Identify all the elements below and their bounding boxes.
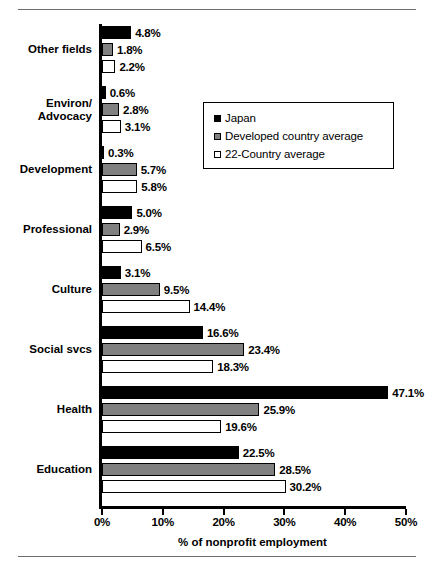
- bar-value-label: 19.6%: [225, 421, 257, 433]
- bar-value-label: 2.2%: [119, 61, 144, 73]
- bar-value-label: 0.6%: [110, 87, 135, 99]
- bar: [102, 180, 137, 193]
- bar-value-label: 2.8%: [123, 104, 148, 116]
- category-label: Health: [0, 403, 92, 416]
- x-axis-tick-label: 50%: [376, 516, 434, 528]
- x-axis-tick-label: 40%: [315, 516, 375, 528]
- category-label-line: Social svcs: [0, 343, 92, 356]
- x-axis-tick: [223, 509, 225, 515]
- bar-value-label: 5.0%: [136, 207, 161, 219]
- category-label: Education: [0, 463, 92, 476]
- bar: [102, 26, 131, 39]
- bar: [102, 240, 142, 253]
- white-square-icon: [214, 151, 221, 158]
- category-label-line: Education: [0, 463, 92, 476]
- bar-value-label: 25.9%: [263, 404, 295, 416]
- legend-item: Developed country average: [214, 128, 363, 144]
- category-label: Other fields: [0, 43, 92, 56]
- bar-value-label: 16.6%: [207, 327, 239, 339]
- x-axis-tick-label: 30%: [254, 516, 314, 528]
- gray-square-icon: [214, 133, 221, 140]
- bar: [102, 420, 221, 433]
- category-label-line: Development: [0, 163, 92, 176]
- bar: [102, 283, 160, 296]
- black-square-icon: [214, 115, 221, 122]
- bar-value-label: 30.2%: [290, 481, 322, 493]
- bar: [102, 163, 137, 176]
- x-axis-tick: [101, 509, 103, 515]
- bar: [102, 43, 113, 56]
- category-label: Social svcs: [0, 343, 92, 356]
- category-label: Professional: [0, 223, 92, 236]
- bar: [102, 146, 104, 159]
- legend-item-label: 22-Country average: [225, 148, 325, 160]
- bar-value-label: 2.9%: [124, 224, 149, 236]
- bar: [102, 360, 213, 373]
- bar-value-label: 5.8%: [141, 181, 166, 193]
- bar: [102, 206, 132, 219]
- bar: [102, 343, 244, 356]
- bar: [102, 326, 203, 339]
- legend-item: Japan: [214, 110, 256, 126]
- bar-value-label: 23.4%: [248, 344, 280, 356]
- bar-value-label: 22.5%: [243, 447, 275, 459]
- category-label-line: Advocacy: [0, 110, 92, 123]
- x-axis-line: [99, 506, 406, 509]
- bar-value-label: 18.3%: [217, 361, 249, 373]
- x-axis-title: % of nonprofit employment: [99, 536, 406, 548]
- bar: [102, 463, 275, 476]
- bar: [102, 266, 121, 279]
- bar: [102, 60, 115, 73]
- bar-value-label: 0.3%: [108, 147, 133, 159]
- bar-chart-plot-area: 0%10%20%30%40%50% Other fieldsEnviron/Ad…: [0, 0, 434, 570]
- category-label: Culture: [0, 283, 92, 296]
- bar-value-label: 28.5%: [279, 464, 311, 476]
- category-label-line: Professional: [0, 223, 92, 236]
- bar-value-label: 6.5%: [146, 241, 171, 253]
- x-axis-tick: [283, 509, 285, 515]
- bar: [102, 480, 286, 493]
- x-axis-tick-label: 10%: [133, 516, 193, 528]
- bar-value-label: 47.1%: [392, 387, 424, 399]
- bar: [102, 300, 190, 313]
- x-axis-tick: [162, 509, 164, 515]
- category-label-line: Other fields: [0, 43, 92, 56]
- bar-value-label: 4.8%: [135, 27, 160, 39]
- category-label-line: Culture: [0, 283, 92, 296]
- category-label-line: Environ/: [0, 97, 92, 110]
- category-label: Development: [0, 163, 92, 176]
- bar-value-label: 9.5%: [164, 284, 189, 296]
- bar-value-label: 14.4%: [194, 301, 226, 313]
- bar-value-label: 1.8%: [117, 44, 142, 56]
- category-label-line: Health: [0, 403, 92, 416]
- bar: [102, 86, 106, 99]
- x-axis-tick: [405, 509, 407, 515]
- bar: [102, 103, 119, 116]
- bar-value-label: 3.1%: [125, 121, 150, 133]
- bar-value-label: 5.7%: [141, 164, 166, 176]
- category-label: Environ/Advocacy: [0, 97, 92, 123]
- bar: [102, 403, 259, 416]
- bar: [102, 223, 120, 236]
- bar: [102, 446, 239, 459]
- legend-item-label: Developed country average: [225, 130, 363, 142]
- chart-page: 0%10%20%30%40%50% Other fieldsEnviron/Ad…: [0, 0, 434, 570]
- bar-value-label: 3.1%: [125, 267, 150, 279]
- x-axis-tick: [344, 509, 346, 515]
- bar: [102, 386, 388, 399]
- legend-item: 22-Country average: [214, 146, 325, 162]
- legend-item-label: Japan: [225, 112, 256, 124]
- chart-legend: JapanDeveloped country average22-Country…: [203, 102, 394, 169]
- x-axis-tick-label: 0%: [72, 516, 132, 528]
- x-axis-tick-label: 20%: [194, 516, 254, 528]
- bar: [102, 120, 121, 133]
